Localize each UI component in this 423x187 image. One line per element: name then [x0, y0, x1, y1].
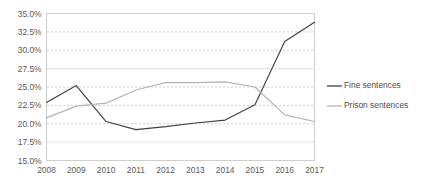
x-axis-tick-label: 2015 — [246, 165, 265, 175]
line-chart: 15.0%17.5%20.0%22.5%25.0%27.5%30.0%32.5%… — [0, 0, 423, 187]
legend-label: Prison sentences — [344, 100, 408, 110]
y-axis-tick-labels: 15.0%17.5%20.0%22.5%25.0%27.5%30.0%32.5%… — [18, 9, 42, 166]
x-axis-tick-label: 2017 — [305, 165, 324, 175]
y-axis-tick-label: 22.5% — [18, 100, 42, 110]
y-axis-tick-label: 25.0% — [18, 82, 42, 92]
x-axis-tick-label: 2014 — [216, 165, 235, 175]
x-axis-tick-label: 2013 — [186, 165, 205, 175]
y-axis-tick-label: 30.0% — [18, 45, 42, 55]
x-axis-tick-label: 2016 — [275, 165, 294, 175]
x-axis-tick-label: 2008 — [37, 165, 56, 175]
y-axis-tick-label: 35.0% — [18, 9, 42, 19]
y-axis-tick-label: 17.5% — [18, 137, 42, 147]
x-axis-tick-label: 2012 — [156, 165, 175, 175]
chart-container: 15.0%17.5%20.0%22.5%25.0%27.5%30.0%32.5%… — [0, 0, 423, 187]
y-axis-tick-label: 20.0% — [18, 119, 42, 129]
y-axis-tick-label: 32.5% — [18, 27, 42, 37]
x-axis-tick-label: 2010 — [97, 165, 116, 175]
x-axis-tick-label: 2011 — [127, 165, 145, 175]
x-axis-tick-label: 2009 — [67, 165, 86, 175]
y-axis-tick-label: 27.5% — [18, 64, 42, 74]
legend-label: Fine sentences — [344, 80, 401, 90]
